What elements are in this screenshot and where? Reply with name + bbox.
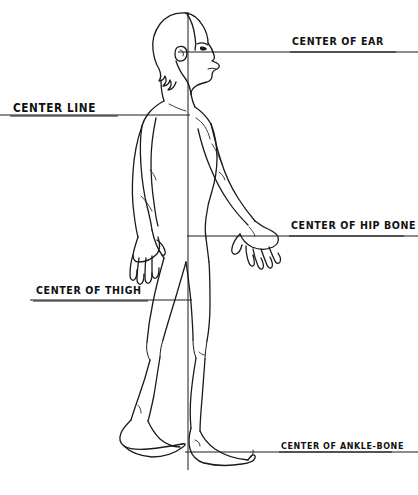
mouth-line xyxy=(208,68,216,69)
far-thigh-front xyxy=(163,262,186,340)
near-foot-top xyxy=(200,431,248,460)
near-knee-crease xyxy=(199,352,205,355)
label-center-of-ankle-bone: CENTER OF ANKLE-BONE xyxy=(281,442,404,451)
label-center-of-ear: CENTER OF EAR xyxy=(292,36,384,47)
figure-drawing xyxy=(0,0,418,495)
near-knee-back xyxy=(193,340,196,358)
near-arm-inner xyxy=(198,129,248,225)
shoulder-front xyxy=(195,107,211,124)
near-ankle-bone xyxy=(195,440,200,446)
label-center-line: CENTER LINE xyxy=(13,102,96,114)
near-hand-palm xyxy=(240,221,278,249)
far-foot-top xyxy=(120,420,182,449)
clavicle-hint xyxy=(169,104,186,111)
ear xyxy=(175,46,187,61)
far-heel xyxy=(148,421,180,447)
near-elbow-crease xyxy=(219,172,225,180)
near-finger-4 xyxy=(269,247,280,263)
neck-back xyxy=(161,80,164,101)
buttock-curve xyxy=(152,230,164,258)
far-arm-group xyxy=(130,118,165,284)
far-finger-3 xyxy=(145,258,152,283)
far-ankle-detail xyxy=(138,405,141,413)
near-thumb xyxy=(232,234,242,254)
near-arm-outer xyxy=(211,124,255,221)
far-knee-front xyxy=(160,340,163,357)
jawline xyxy=(176,61,191,94)
ear-inner xyxy=(180,50,183,56)
eyebrow xyxy=(197,43,208,45)
near-thigh-front xyxy=(207,262,210,341)
hip-front-curve xyxy=(206,238,209,262)
proportion-diagram-canvas: CENTER OF EAR CENTER LINE CENTER OF HIP … xyxy=(0,0,418,495)
near-knee-front xyxy=(205,341,207,359)
neck-shoulders-group xyxy=(142,80,211,126)
far-shin-front xyxy=(148,357,160,421)
near-calf xyxy=(190,358,196,428)
near-leg-group xyxy=(186,262,255,465)
eye xyxy=(200,47,207,51)
far-finger-4 xyxy=(152,256,159,278)
back-contour xyxy=(140,126,152,230)
label-center-of-hip-bone: CENTER OF HIP BONE xyxy=(291,220,416,231)
near-wrist-crease xyxy=(249,227,255,236)
far-knee xyxy=(147,342,150,360)
near-shin xyxy=(200,359,205,431)
neck-front xyxy=(191,94,195,107)
hair-outline xyxy=(153,13,186,90)
label-center-of-thigh: CENTER OF THIGH xyxy=(36,285,142,296)
near-thigh-back xyxy=(186,262,193,340)
head-group xyxy=(153,13,220,94)
shoulder-back xyxy=(142,101,164,126)
